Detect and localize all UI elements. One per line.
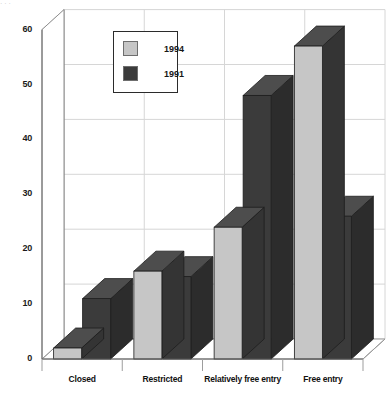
- bar-1994-2: [214, 207, 264, 359]
- bar-1994-3: [294, 26, 344, 359]
- y-tick-label-40: 40: [2, 133, 32, 143]
- y-tick-label-20: 20: [2, 243, 32, 253]
- legend-label-1994: 1994: [164, 44, 184, 54]
- y-axis-wall: [42, 10, 64, 359]
- bar-1994-1: [134, 251, 184, 359]
- x-tick-label-0: Closed: [38, 374, 126, 384]
- x-tick-label-3: Free entry: [279, 374, 367, 384]
- legend-entry-1994: 1994: [123, 41, 184, 56]
- y-tick-label-0: 0: [2, 353, 32, 363]
- chart-legend: 1994 1991: [113, 31, 178, 93]
- chart-canvas: [0, 0, 390, 395]
- legend-swatch-1994: [123, 41, 138, 56]
- legend-swatch-1991: [123, 66, 138, 81]
- legend-entry-1991: 1991: [123, 66, 184, 81]
- x-tick-label-2: Relatively free entry: [199, 374, 287, 384]
- y-tick-label-30: 30: [2, 188, 32, 198]
- y-tick-label-50: 50: [2, 79, 32, 89]
- y-tick-label-10: 10: [2, 298, 32, 308]
- y-tick-label-60: 60: [2, 24, 32, 34]
- x-tick-label-1: Restricted: [118, 374, 206, 384]
- legend-label-1991: 1991: [164, 69, 184, 79]
- bar-chart: · · · 6050403020100 ClosedRestrictedRela…: [0, 0, 390, 395]
